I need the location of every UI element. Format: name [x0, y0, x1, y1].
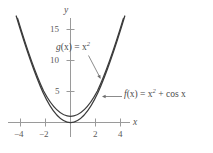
x-tick-label-4: 4 [118, 130, 123, 139]
x-tick-label--2: −2 [39, 130, 49, 139]
curve-label-g-arg: (x) = x [61, 42, 87, 52]
x-axis-label: x [133, 118, 137, 128]
curve-label-f: f(x) = x2 + cos x [124, 90, 186, 100]
f-label-arrow [102, 95, 122, 99]
g-leader-line [89, 56, 101, 78]
function-plot-figure: y x 5 10 15 −4 −2 2 4 g(x) = x2 f(x) = x… [0, 0, 213, 153]
g-leader-arrowhead [97, 75, 100, 79]
y-axis-label: y [64, 6, 68, 16]
curve-label-g-exponent: 2 [87, 40, 90, 47]
y-tick-label-15: 15 [50, 25, 59, 34]
x-tick-label-2: 2 [93, 130, 98, 139]
curve-label-g: g(x) = x2 [56, 43, 90, 53]
curve-label-f-tail: + cos x [156, 89, 186, 99]
y-tick-label-10: 10 [50, 56, 59, 65]
curve-label-f-arg: (x) = x [127, 89, 153, 99]
plot-canvas [0, 0, 213, 153]
f-arrow-head [102, 95, 106, 99]
x-tick-label--4: −4 [14, 130, 24, 139]
y-tick-label-5: 5 [55, 87, 60, 96]
axes-group [8, 18, 130, 137]
g-label-leader [89, 56, 101, 80]
